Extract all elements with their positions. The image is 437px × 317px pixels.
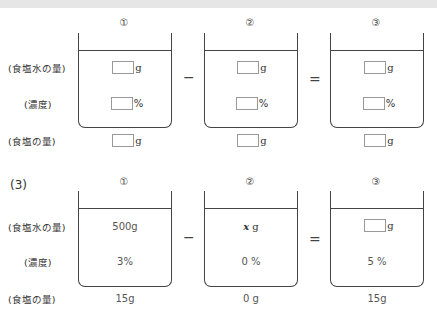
answer-box[interactable] xyxy=(237,134,259,147)
row-label-concentration: (濃度) xyxy=(24,97,51,111)
salt-field: g xyxy=(232,133,272,148)
beaker-3 xyxy=(330,191,424,287)
beaker-1 xyxy=(78,33,172,128)
concentration-field: % xyxy=(359,96,399,111)
beaker-number: ② xyxy=(240,176,260,187)
concentration-value: 5 % xyxy=(352,254,402,269)
answer-box[interactable] xyxy=(111,97,133,110)
answer-box[interactable] xyxy=(237,61,259,74)
row-label-salt-water: (食塩水の量) xyxy=(8,220,65,234)
salt-value: 15g xyxy=(352,291,402,306)
beaker-2 xyxy=(204,191,298,287)
answer-box[interactable] xyxy=(236,97,258,110)
salt-value: 0 g xyxy=(226,291,276,306)
answer-box[interactable] xyxy=(112,134,134,147)
salt-water-field: g xyxy=(107,60,147,75)
beaker-1 xyxy=(78,191,172,287)
answer-box[interactable] xyxy=(112,61,134,74)
salt-water-field: g xyxy=(359,60,399,75)
answer-box[interactable] xyxy=(364,134,386,147)
answer-box[interactable] xyxy=(364,61,386,74)
minus-operator: − xyxy=(183,69,195,85)
salt-value: 15g xyxy=(100,291,150,306)
water-line xyxy=(205,50,297,51)
variable-x: x xyxy=(243,221,249,232)
water-line xyxy=(79,50,171,51)
equals-operator: = xyxy=(309,231,321,247)
salt-water-value: xg xyxy=(226,219,276,234)
salt-water-value: 500g xyxy=(100,219,150,234)
water-line xyxy=(79,208,171,209)
row-label-salt-water: (食塩水の量) xyxy=(8,61,65,75)
equals-operator: = xyxy=(309,71,321,87)
beaker-number: ① xyxy=(114,17,134,28)
row-label-salt: (食塩の量) xyxy=(8,134,55,148)
row-label-concentration: (濃度) xyxy=(24,255,51,269)
water-line xyxy=(331,50,423,51)
concentration-field: % xyxy=(107,96,147,111)
beaker-number: ③ xyxy=(366,17,386,28)
salt-water-field: g xyxy=(359,218,399,233)
beaker-2 xyxy=(204,33,298,128)
water-line xyxy=(331,208,423,209)
beaker-number: ③ xyxy=(366,176,386,187)
water-line xyxy=(205,208,297,209)
salt-field: g xyxy=(359,133,399,148)
header-band xyxy=(0,0,437,8)
concentration-value: 0 % xyxy=(226,254,276,269)
part-label: (3) xyxy=(10,178,27,192)
beaker-number: ① xyxy=(114,176,134,187)
beaker-number: ② xyxy=(240,17,260,28)
beaker-3 xyxy=(330,33,424,128)
minus-operator: − xyxy=(183,229,195,245)
answer-box[interactable] xyxy=(363,97,385,110)
concentration-value: 3% xyxy=(100,254,150,269)
salt-water-field: g xyxy=(232,60,272,75)
salt-field: g xyxy=(107,133,147,148)
concentration-field: % xyxy=(232,96,272,111)
row-label-salt: (食塩の量) xyxy=(8,292,55,306)
answer-box[interactable] xyxy=(364,219,386,232)
